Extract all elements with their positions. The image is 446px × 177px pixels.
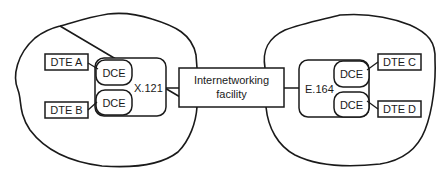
dte-a-label: DTE A: [51, 56, 83, 68]
dte-b-label: DTE B: [50, 104, 82, 116]
interworking-label-line1: Internetworking: [194, 74, 269, 86]
dce-left-top-label: DCE: [102, 67, 125, 79]
dce-left-bottom-label: DCE: [102, 97, 125, 109]
interworking-label-line2: facility: [216, 88, 247, 100]
dte-c-label: DTE C: [383, 56, 416, 68]
dce-right-bottom-label: DCE: [340, 99, 363, 111]
network-interworking-diagram: X.121 DCE DCE DTE A DTE B Internetworkin…: [0, 0, 446, 177]
dte-d-label: DTE D: [383, 103, 416, 115]
e164-label: E.164: [305, 83, 334, 95]
dce-right-top-label: DCE: [340, 68, 363, 80]
x121-label: X.121: [134, 82, 163, 94]
